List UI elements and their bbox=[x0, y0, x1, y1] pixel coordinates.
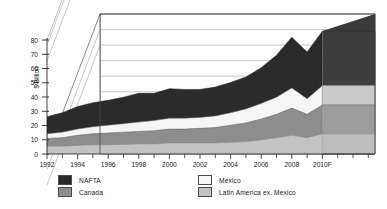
legend-label-mexico: Mexico bbox=[219, 177, 241, 184]
legend-swatch-nafta bbox=[58, 175, 72, 185]
legend-label-latin-america-ex-mexico: Latin America ex. Mexico bbox=[219, 189, 296, 196]
depth-mexico bbox=[322, 86, 375, 105]
x-tick-label-2004: 2004 bbox=[217, 161, 245, 168]
y-tick-label-70: 70 bbox=[22, 51, 38, 58]
legend-label-nafta: NAFTA bbox=[79, 177, 101, 184]
legend-label-canada: Canada bbox=[79, 189, 103, 196]
legend-entry-nafta[interactable]: NAFTA bbox=[58, 175, 101, 185]
x-tick-label-2010F: 2010F bbox=[306, 161, 338, 168]
legend-swatch-mexico bbox=[198, 175, 212, 185]
depth-nafta-body bbox=[322, 31, 375, 86]
depth-latin-america bbox=[322, 134, 375, 154]
legend-swatch-latin-america-ex-mexico bbox=[198, 187, 212, 197]
y-tick-label-60: 60 bbox=[22, 65, 38, 72]
y-tick-label-50: 50 bbox=[22, 79, 38, 86]
x-tick-label-2000: 2000 bbox=[155, 161, 183, 168]
y-tick-label-10: 10 bbox=[22, 136, 38, 143]
x-tick-label-1992: 1992 bbox=[33, 161, 61, 168]
x-tick-label-1998: 1998 bbox=[125, 161, 153, 168]
y-tick-label-40: 40 bbox=[22, 94, 38, 101]
x-tick-label-2008: 2008 bbox=[278, 161, 306, 168]
x-tick-label-1996: 1996 bbox=[94, 161, 122, 168]
depth-canada bbox=[322, 105, 375, 134]
y-tick-label-30: 30 bbox=[22, 108, 38, 115]
y-tick-label-20: 20 bbox=[22, 122, 38, 129]
x-tick-label-2002: 2002 bbox=[186, 161, 214, 168]
legend-entry-mexico[interactable]: Mexico bbox=[198, 175, 241, 185]
chart-legend: NAFTA Canada Mexico Latin America ex. Me… bbox=[58, 175, 378, 203]
depth-end-cap bbox=[322, 14, 375, 154]
y-tick-label-0: 0 bbox=[22, 151, 38, 158]
legend-entry-latin-america-ex-mexico[interactable]: Latin America ex. Mexico bbox=[198, 187, 296, 197]
y-tick-label-80: 80 bbox=[22, 37, 38, 44]
legend-swatch-canada bbox=[58, 187, 72, 197]
x-tick-label-1994: 1994 bbox=[64, 161, 92, 168]
x-tick-label-2006: 2006 bbox=[247, 161, 275, 168]
legend-entry-canada[interactable]: Canada bbox=[58, 187, 103, 197]
chart-figure: $ Billion 80 70 60 50 40 30 20 10 0 1992… bbox=[0, 0, 387, 209]
